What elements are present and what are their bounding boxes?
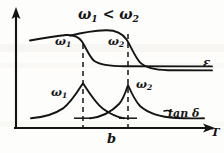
label-tan-delta-quantity: tan δ xyxy=(168,108,199,119)
label-epsilon-quantity: ε xyxy=(203,57,210,69)
label-omega2-epsilon-curve: ω2 xyxy=(108,36,124,49)
label-omega1-tandelta-curve: ω1 xyxy=(51,87,67,100)
label-omega2-tandelta-curve: ω2 xyxy=(136,79,152,92)
figure-caption: b xyxy=(107,132,116,145)
curve-epsilon-omega2 xyxy=(70,30,212,70)
less-than-sign: < xyxy=(103,6,115,22)
curve-tandelta-omega1 xyxy=(31,83,124,118)
label-omega1-epsilon-curve: ω1 xyxy=(55,36,71,49)
figure-container: ω1 < ω2 ω1 ω2 ω1 ω2 ε tan δ T b xyxy=(0,0,224,153)
y-axis xyxy=(12,7,21,128)
label-x-axis-temperature: T xyxy=(211,127,220,139)
title-omega-inequality: ω1 < ω2 xyxy=(78,7,139,23)
